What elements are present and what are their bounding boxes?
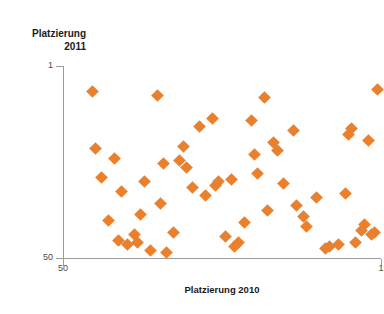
data-point <box>144 244 157 257</box>
data-point <box>96 171 109 184</box>
data-point <box>160 246 173 259</box>
data-point <box>261 205 274 218</box>
data-point <box>193 120 206 133</box>
x-axis-tick-label: 50 <box>51 263 75 273</box>
y-axis-title-line-2: 2011 <box>0 40 86 53</box>
y-axis-tick-label: 1 <box>33 60 53 70</box>
data-point <box>287 124 300 137</box>
data-point <box>219 230 232 243</box>
data-point <box>177 140 190 153</box>
data-point <box>86 85 99 98</box>
data-point <box>167 226 180 239</box>
data-point <box>258 91 271 104</box>
y-axis-tick <box>56 66 63 67</box>
data-point <box>138 175 151 188</box>
y-axis-title-line-1: Platzierung <box>0 27 86 40</box>
data-point <box>206 113 219 126</box>
y-axis-tick <box>56 258 63 259</box>
x-axis-tick-label: 1 <box>369 263 384 273</box>
plot-area <box>63 66 381 258</box>
data-point <box>310 191 323 204</box>
data-point <box>251 167 264 180</box>
data-point <box>154 197 167 210</box>
data-point <box>277 177 290 190</box>
data-point <box>102 214 115 227</box>
data-point <box>225 173 238 186</box>
data-point <box>362 134 375 147</box>
x-axis-title: Platzierung 2010 <box>63 284 381 295</box>
data-point <box>135 209 148 222</box>
data-point <box>290 199 303 212</box>
y-axis-tick-label: 50 <box>33 252 53 262</box>
data-point <box>186 181 199 194</box>
data-point <box>371 83 384 96</box>
data-point <box>89 142 102 155</box>
x-axis-line <box>63 258 381 259</box>
scatter-chart: Platzierung 2011 150501 Platzierung 2010 <box>0 0 384 314</box>
data-point <box>332 238 345 251</box>
y-axis-title: Platzierung 2011 <box>0 27 86 53</box>
data-point <box>349 236 362 249</box>
data-point <box>109 152 122 165</box>
data-point <box>151 89 164 102</box>
data-point <box>339 187 352 200</box>
data-point <box>245 114 258 127</box>
data-point <box>157 158 170 171</box>
data-point <box>115 185 128 198</box>
data-point <box>248 148 261 161</box>
data-point <box>238 216 251 229</box>
data-point <box>199 189 212 202</box>
